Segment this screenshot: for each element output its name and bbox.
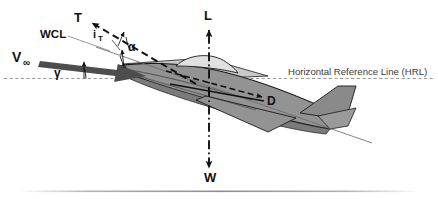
weight-label: W [204, 170, 217, 185]
wcl-label: WCL [40, 28, 66, 40]
it-label-subscript: T [98, 34, 103, 43]
thrust-label: T [74, 10, 82, 25]
lift-label: L [204, 8, 212, 23]
velocity-label-subscript: ∞ [23, 57, 30, 68]
hrl-label: Horizontal Reference Line (HRL) [288, 66, 427, 77]
thrust-incidence-label: i T [93, 28, 103, 43]
it-label-base: i [93, 28, 96, 40]
figure-canvas: T L W D V ∞ WCL α γ i T Horizontal Refer… [0, 0, 438, 199]
wcl-leader [68, 36, 110, 51]
aircraft-force-diagram: T L W D V ∞ WCL α γ i T Horizontal Refer… [0, 0, 438, 199]
drag-label: D [267, 94, 276, 108]
alpha-label: α [128, 40, 136, 54]
velocity-arrow-shaft [38, 61, 126, 77]
it-tick [118, 32, 124, 46]
velocity-label-base: V [12, 49, 22, 65]
footer-rule [18, 191, 420, 193]
gamma-label: γ [54, 66, 61, 80]
velocity-label: V ∞ [12, 49, 30, 68]
